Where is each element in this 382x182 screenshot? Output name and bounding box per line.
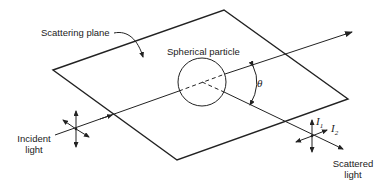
incident-light-label: Incident light: [14, 133, 54, 155]
scattered-beam-line: [224, 92, 343, 149]
theta-label: θ: [257, 78, 262, 89]
i1-label: I1: [316, 116, 323, 132]
scattering-plane-pointer-arrow: [114, 32, 143, 57]
theta-angle-arc: [250, 66, 257, 105]
incident-beam-arrowhead-mid: [100, 115, 112, 119]
scattered-beam-inside-dashed: [202, 82, 224, 92]
incident-beam-line: [55, 91, 179, 135]
scattered-light-label-line2: light: [328, 169, 378, 180]
spherical-particle-label: Spherical particle: [167, 46, 240, 57]
incident-light-label-line1: Incident: [14, 133, 54, 144]
transmitted-beam-line: [225, 32, 352, 74]
i2-label: I2: [331, 123, 338, 139]
incident-polarization-icon: [63, 111, 89, 147]
scattered-light-label-line1: Scattered: [328, 158, 378, 169]
i2-subscript: 2: [335, 129, 339, 137]
incident-light-label-line2: light: [14, 144, 54, 155]
scattered-light-label: Scattered light: [328, 158, 378, 180]
scattering-plane-label: Scattering plane: [41, 27, 110, 38]
i1-subscript: 1: [320, 122, 324, 130]
